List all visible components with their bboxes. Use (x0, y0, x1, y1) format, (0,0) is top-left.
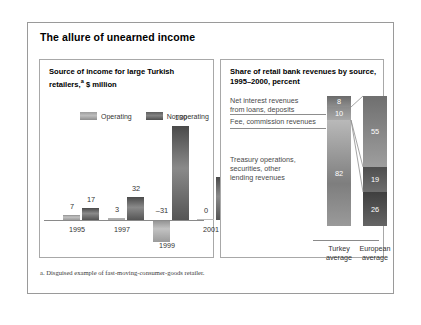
left-chart-title-line1: Source of income for large Turkish (49, 67, 174, 76)
left-chart-title-line2: retailers, (49, 79, 81, 88)
legend-label-operating: Operating (101, 113, 132, 120)
category-line2-0: average (326, 253, 352, 262)
left-bar-plot: 717332–31130060 (49, 132, 209, 220)
bar-operating-4 (153, 220, 170, 242)
legend-item-operating: Operating (80, 112, 132, 120)
bar-value-label-5: 130 (168, 113, 194, 122)
bar-value-label-3: 32 (123, 184, 149, 193)
category-line1-1: European (359, 244, 390, 253)
left-chart-title: Source of income for large Turkish retai… (49, 67, 207, 89)
left-chart-panel: Source of income for large Turkish retai… (39, 59, 214, 258)
bar-nonoperating-1 (82, 208, 99, 220)
operating-swatch-icon (80, 112, 97, 120)
exhibit-title: The allure of unearned income (40, 31, 195, 43)
bar-value-label-1: 17 (78, 195, 104, 204)
category-line1-0: Turkey (328, 244, 350, 253)
category-line2-1: average (362, 253, 388, 262)
stack-connector-lines (221, 60, 383, 257)
nonoperating-swatch-icon (146, 112, 163, 120)
category-label-1: Europeanaverage (354, 244, 396, 262)
left-chart-title-line2b: $ million (84, 79, 117, 88)
right-chart-panel: Share of retail bank revenues by source,… (220, 59, 384, 258)
right-chart-baseline (313, 240, 379, 241)
exhibit-frame: The allure of unearned income Source of … (27, 22, 394, 294)
bar-nonoperating-5 (172, 126, 189, 220)
xaxis-label-1995: 1995 (57, 225, 97, 234)
left-chart-baseline (44, 220, 204, 221)
exhibit-footnote: a. Disguised example of fast-moving-cons… (40, 269, 204, 276)
xaxis-label-1997: 1997 (102, 225, 142, 234)
xaxis-label-1999: 1999 (147, 241, 187, 250)
bar-nonoperating-3 (127, 197, 144, 220)
